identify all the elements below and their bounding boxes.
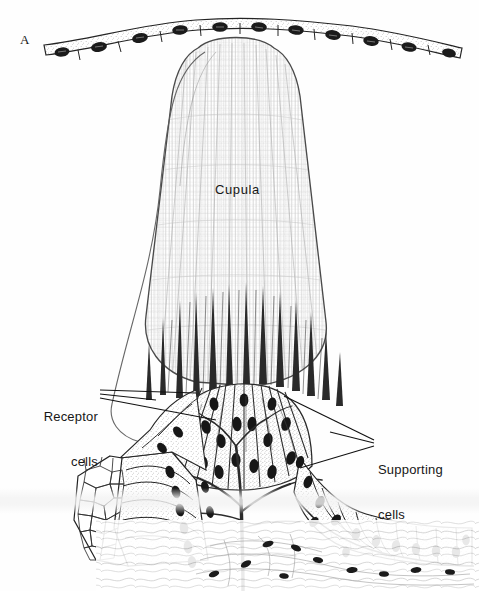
receptor-cells-label-line1: Receptor	[36, 409, 98, 424]
supporting-cells-label: Supporting cells	[378, 432, 443, 552]
receptor-cells-label: Receptor cells	[36, 379, 98, 499]
figure-plate: A Cupula Receptor cells Supporting cells	[0, 0, 479, 591]
receptor-cells-label-line2: cells	[36, 454, 98, 469]
cupula-label: Cupula	[215, 182, 260, 197]
supporting-cells-label-line1: Supporting	[378, 462, 443, 477]
supporting-cells-label-line2: cells	[378, 507, 443, 522]
panel-letter-a: A	[20, 32, 30, 48]
